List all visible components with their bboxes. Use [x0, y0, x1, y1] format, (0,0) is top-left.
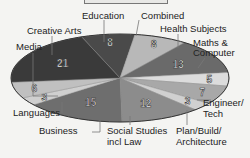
label-media: Media — [16, 42, 42, 52]
slice-value: 13 — [173, 59, 185, 70]
label-health-subjects: Health Subjects — [160, 24, 227, 34]
label-social-1: Social Studies — [107, 126, 167, 136]
label-plan-1: Plan/Build/ — [176, 126, 221, 136]
label-social-2: incl Law — [107, 137, 141, 147]
label-engineer-2: Tech — [203, 109, 223, 119]
leader-line — [136, 20, 139, 36]
label-maths-2: Computer — [193, 48, 235, 58]
label-education: Education — [82, 11, 124, 21]
slice-value: 8 — [151, 39, 157, 50]
slice-value: 12 — [140, 98, 152, 109]
label-combined: Combined — [141, 11, 184, 21]
label-plan-2: Architecture — [176, 137, 227, 147]
slice-value: 5 — [207, 74, 213, 85]
label-languages: Languages — [13, 108, 60, 118]
label-engineer-1: Engineer/ — [203, 98, 244, 108]
slice-value: 6 — [31, 83, 37, 94]
label-creative-arts: Creative Arts — [27, 26, 81, 36]
label-business: Business — [39, 126, 78, 136]
slice-value: 15 — [85, 97, 97, 108]
slice-value: 7 — [199, 87, 205, 98]
slice-value: 8 — [107, 37, 113, 48]
slice-value: 21 — [57, 58, 69, 69]
